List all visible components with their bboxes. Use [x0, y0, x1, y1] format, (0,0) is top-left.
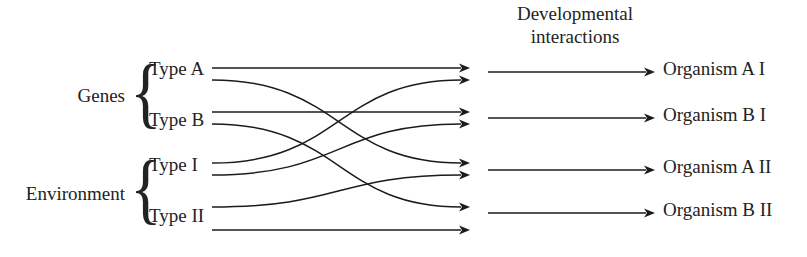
connector-type-b-to-organism-b-ii: [212, 124, 461, 207]
developmental-interactions-diagram: Developmental interactions Genes { Type …: [0, 0, 807, 257]
connector-type-i-to-organism-b-i: [212, 124, 461, 175]
connector-type-ii-to-organism-a-ii: [212, 175, 461, 207]
connector-graph: [0, 0, 807, 257]
